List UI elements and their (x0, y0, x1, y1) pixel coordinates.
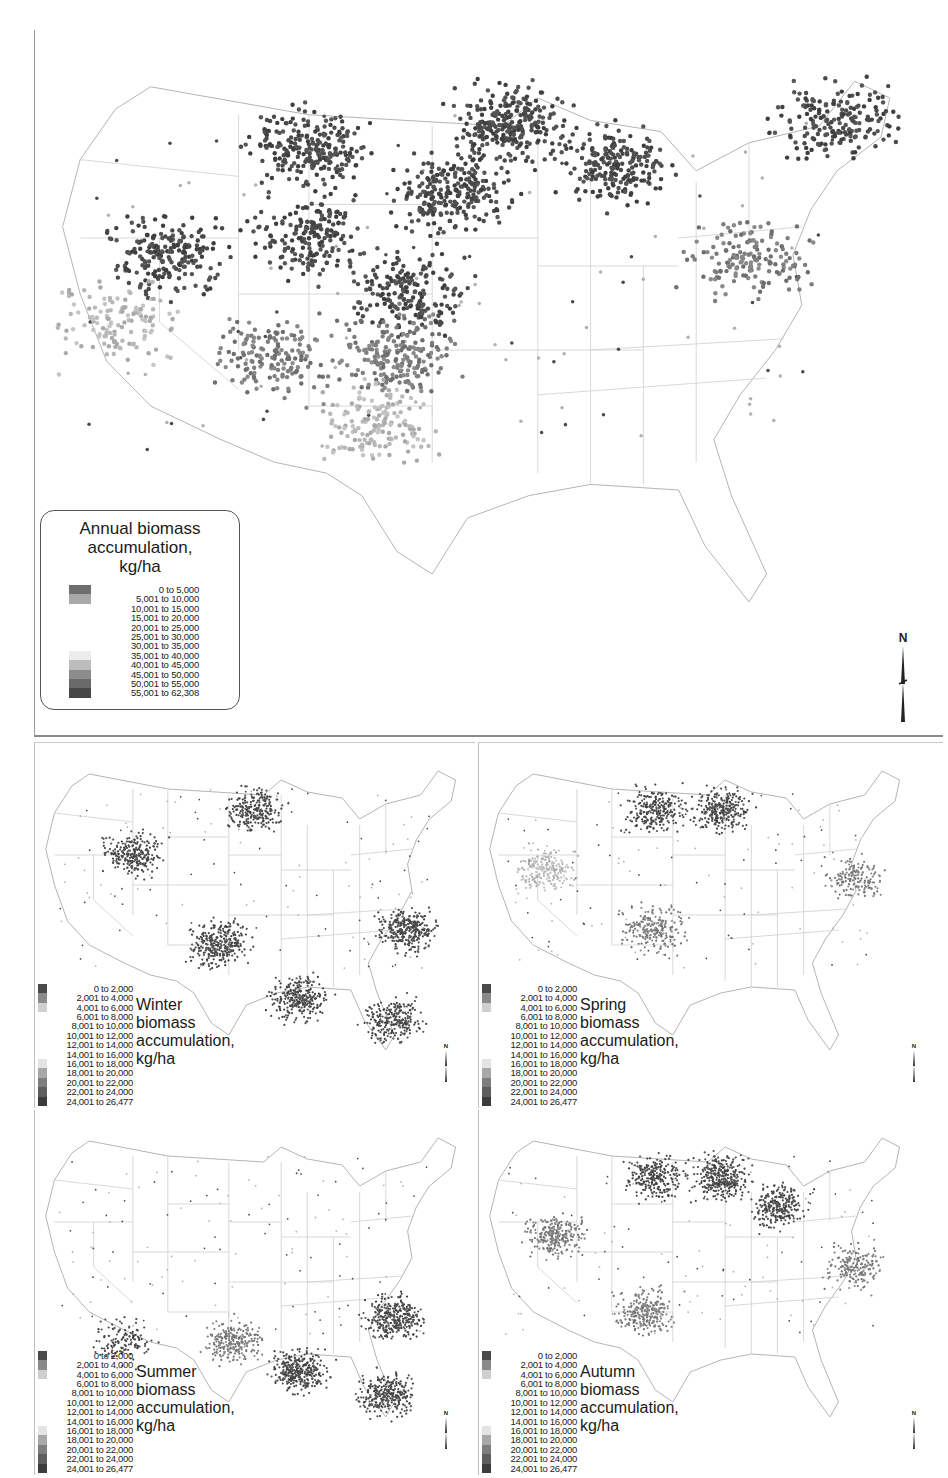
sample-point (385, 281, 389, 285)
sample-point (367, 344, 371, 348)
sample-point (790, 1314, 792, 1316)
sample-point (156, 1172, 158, 1174)
sample-point (780, 105, 784, 109)
sample-point (628, 1228, 630, 1230)
sample-point (316, 285, 320, 289)
sample-point (454, 188, 458, 192)
north-arrow: N (893, 632, 913, 728)
sample-point (380, 1039, 382, 1041)
sample-point (267, 129, 271, 133)
sample-point (503, 158, 507, 162)
sample-point (392, 339, 396, 343)
sample-point (426, 161, 430, 165)
sample-point (385, 940, 387, 942)
sample-point (279, 1376, 281, 1378)
sample-point (764, 1201, 766, 1203)
sample-point (648, 1184, 650, 1186)
sample-point (286, 1007, 288, 1009)
sample-point (464, 216, 468, 220)
sample-point (240, 785, 242, 787)
title-line: biomass (136, 1014, 235, 1032)
sample-point (294, 1394, 296, 1396)
sample-point (732, 1170, 734, 1172)
legend-swatch (38, 1388, 47, 1397)
sample-point (287, 1218, 289, 1220)
sample-point (798, 809, 800, 811)
sample-point (636, 812, 638, 814)
sample-point (212, 1353, 214, 1355)
sample-point (584, 1315, 586, 1317)
sample-point (149, 889, 151, 891)
sample-point (314, 1385, 316, 1387)
sample-point (636, 1195, 638, 1197)
sample-point (639, 1286, 641, 1288)
sample-point (305, 150, 309, 154)
sample-point (662, 1303, 664, 1305)
sample-point (372, 428, 376, 432)
legend-swatch (482, 1021, 491, 1030)
sample-point (660, 1297, 662, 1299)
sample-point (729, 1167, 731, 1169)
sample-point (397, 1388, 399, 1390)
sample-point (339, 1275, 341, 1277)
sample-point (651, 930, 653, 932)
sample-point (121, 840, 123, 842)
sample-point (646, 201, 650, 205)
sample-point (646, 826, 648, 828)
sample-point (60, 290, 64, 294)
sample-point (410, 1387, 412, 1389)
sample-point (295, 1359, 297, 1361)
sample-point (403, 1307, 405, 1309)
sample-point (611, 1291, 613, 1293)
sample-point (365, 307, 369, 311)
sample-point (373, 1027, 375, 1029)
sample-point (546, 862, 548, 864)
sample-point (496, 117, 500, 121)
sample-point (413, 915, 415, 917)
sample-point (114, 895, 116, 897)
sample-point (385, 324, 389, 328)
sample-point (324, 250, 328, 254)
sample-point (367, 1389, 369, 1391)
sample-point (637, 1307, 639, 1309)
sample-point (420, 181, 424, 185)
sample-point (676, 831, 678, 833)
sample-point (298, 342, 302, 346)
sample-point (721, 241, 725, 245)
sample-point (654, 235, 658, 239)
sample-point (809, 1202, 811, 1204)
sample-point (278, 814, 280, 816)
sample-point (475, 182, 479, 186)
sample-point (806, 270, 810, 274)
sample-point (621, 1292, 623, 1294)
sample-point (308, 1392, 310, 1394)
sample-point (365, 433, 369, 437)
sample-point (464, 227, 468, 231)
sample-point (114, 851, 116, 853)
sample-point (849, 139, 853, 143)
sample-point (421, 359, 425, 363)
legend-swatch (38, 1059, 47, 1068)
sample-point (326, 1371, 328, 1373)
sample-point (383, 421, 387, 425)
sample-point (824, 1288, 826, 1290)
sample-point (581, 1216, 583, 1218)
sample-point (273, 330, 277, 334)
sample-point (408, 944, 410, 946)
sample-point (302, 1385, 304, 1387)
sample-point (301, 246, 305, 250)
sample-point (861, 853, 863, 855)
sample-point (703, 1180, 705, 1182)
sample-point (704, 817, 706, 819)
sample-point (665, 1165, 667, 1167)
sample-point (772, 419, 776, 423)
sample-point (404, 285, 408, 289)
sample-point (263, 246, 267, 250)
sample-point (751, 1211, 753, 1213)
sample-point (308, 1005, 310, 1007)
sample-point (834, 891, 836, 893)
sample-point (161, 1276, 163, 1278)
sample-point (400, 1327, 402, 1329)
sample-point (143, 260, 147, 264)
sample-point (729, 1224, 731, 1226)
